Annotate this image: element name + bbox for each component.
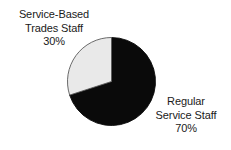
slice-label-line-2: Service Staff [142,109,230,123]
slice-label-percent: 70% [142,122,230,136]
slice-label-line-1: Regular [142,95,230,109]
slice-label-percent: 30% [6,35,102,49]
slice-label-service-based-trades-staff: Service-Based Trades Staff 30% [6,8,102,49]
slice-label-line-1: Service-Based [6,8,102,22]
pie-chart-figure: Service-Based Trades Staff 30% Regular S… [0,0,231,150]
slice-label-regular-service-staff: Regular Service Staff 70% [142,95,230,136]
slice-label-line-2: Trades Staff [6,22,102,36]
